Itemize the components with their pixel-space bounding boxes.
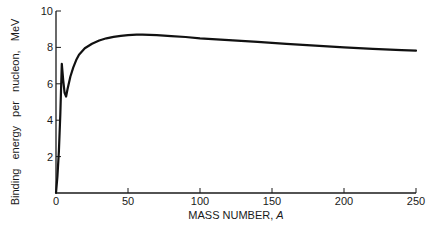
y-tick-label: 10 bbox=[41, 5, 53, 17]
y-axis-label-text: Binding energy per nucleon, MeV bbox=[9, 18, 21, 205]
x-axis-ticks: 050100150200250 bbox=[53, 188, 425, 207]
y-tick-label: 2 bbox=[47, 151, 53, 163]
x-axis-label: MASS NUMBER, A bbox=[188, 209, 283, 221]
x-tick-label: 0 bbox=[53, 195, 59, 207]
x-tick-label: 50 bbox=[122, 195, 134, 207]
y-tick-label: 6 bbox=[47, 78, 53, 90]
binding-energy-curve bbox=[56, 35, 416, 193]
x-tick-label: 250 bbox=[407, 195, 425, 207]
binding-energy-chart: 246810 050100150200250 MASS NUMBER, A Bi… bbox=[0, 0, 444, 230]
y-tick-label: 8 bbox=[47, 41, 53, 53]
x-tick-label: 150 bbox=[263, 195, 281, 207]
y-axis-label: Binding energy per nucleon, MeV bbox=[9, 18, 21, 205]
y-tick-label: 4 bbox=[47, 114, 53, 126]
x-tick-label: 100 bbox=[191, 195, 209, 207]
y-axis-ticks: 246810 bbox=[41, 5, 61, 163]
x-tick-label: 200 bbox=[335, 195, 353, 207]
